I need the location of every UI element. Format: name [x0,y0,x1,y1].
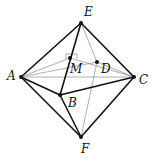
label-E: E [84,6,93,18]
label-A: A [7,70,16,82]
label-M: M [70,63,82,75]
hidden-edges [21,23,134,137]
diagram-canvas [0,0,156,162]
label-F: F [81,143,89,155]
octahedron-diagram: E A C B F M D [0,0,156,162]
label-B: B [68,97,77,109]
label-D: D [101,63,111,75]
label-C: C [139,74,148,86]
solid-edges [21,23,134,137]
